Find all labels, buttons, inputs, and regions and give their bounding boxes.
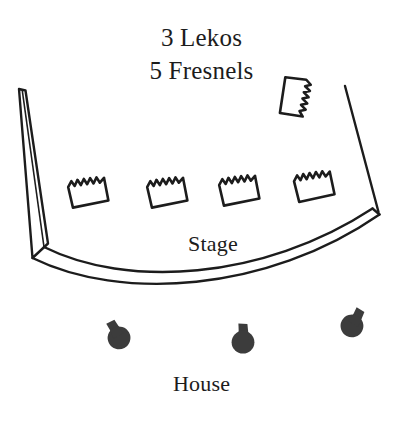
leko-group bbox=[100, 304, 371, 353]
fresnel-group bbox=[67, 75, 334, 208]
fresnel-3[interactable] bbox=[218, 174, 259, 205]
title-line-lekos: 3 Lekos bbox=[0, 24, 403, 52]
leko-2[interactable] bbox=[232, 324, 255, 354]
fresnel-2[interactable] bbox=[146, 176, 187, 207]
fresnel-4[interactable] bbox=[293, 170, 335, 202]
title-line-fresnels: 5 Fresnels bbox=[0, 57, 403, 85]
leko-3[interactable] bbox=[337, 304, 371, 341]
right-stage-wall bbox=[345, 86, 379, 212]
fresnel-1[interactable] bbox=[67, 176, 108, 207]
left-stage-wall bbox=[19, 89, 48, 258]
stage-label: Stage bbox=[188, 231, 238, 257]
lighting-plot-canvas: 3 Lekos 5 Fresnels Stage House bbox=[0, 0, 403, 421]
leko-1[interactable] bbox=[100, 316, 134, 353]
house-label: House bbox=[0, 371, 403, 397]
